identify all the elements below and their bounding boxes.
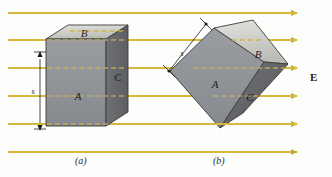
cube-b: A B C <box>170 20 288 128</box>
dimension-endpoint-top-b <box>204 22 207 25</box>
cube-a-label-B: B <box>81 27 88 39</box>
cube-a-face-front <box>46 39 106 126</box>
cube-b-label-A: A <box>211 78 219 90</box>
diagram-svg: A B C s <box>0 0 332 177</box>
electric-field-label: E <box>310 71 317 83</box>
cube-a-label-A: A <box>74 90 82 102</box>
dimension-s-a <box>34 51 46 131</box>
dimension-label-a: s <box>31 87 34 96</box>
cube-b-label-B: B <box>255 48 262 60</box>
dimension-label-b: s <box>180 49 183 58</box>
caption-panel-b: (b) <box>213 155 225 166</box>
dimension-endpoint-bottom-b <box>167 69 170 72</box>
caption-panel-a: (a) <box>75 155 87 166</box>
cube-a-label-C: C <box>114 71 122 83</box>
cube-a: A B C <box>46 25 128 126</box>
dimension-arrow-bottom-a <box>38 125 43 131</box>
cube-b-label-C: C <box>246 91 254 103</box>
figure-canvas: A B C s <box>0 0 332 177</box>
